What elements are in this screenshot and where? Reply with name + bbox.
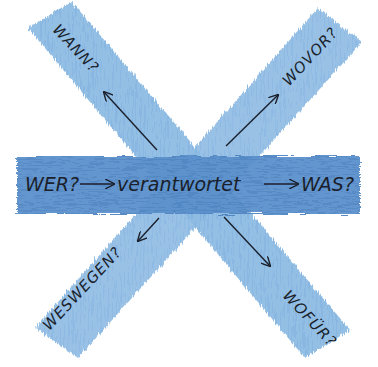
responsibility-diagram: WER? verantwortet WAS? WANN? WOVOR? WESW…	[0, 0, 378, 367]
center-verb-label: verantwortet	[117, 173, 242, 195]
center-object-label: WAS?	[301, 173, 354, 195]
center-subject-label: WER?	[25, 173, 79, 195]
